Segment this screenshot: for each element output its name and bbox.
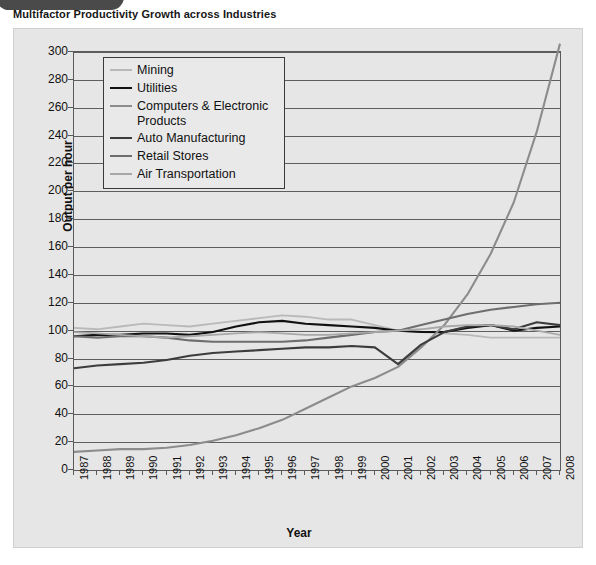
x-tick-label: 2001 xyxy=(402,456,414,480)
x-tick-mark xyxy=(397,470,398,475)
x-tick-mark xyxy=(443,470,444,475)
x-tick-mark xyxy=(212,470,213,475)
legend-swatch-icon xyxy=(110,87,132,89)
x-tick-label: 1987 xyxy=(78,456,90,480)
x-tick-mark xyxy=(374,470,375,475)
x-tick-label: 1990 xyxy=(147,456,159,480)
x-tick-mark xyxy=(189,470,190,475)
y-tick-label: 40 xyxy=(55,406,68,420)
legend-swatch-icon xyxy=(110,105,132,107)
x-tick-label: 1989 xyxy=(124,456,136,480)
x-tick-label: 1998 xyxy=(333,456,345,480)
y-tick-label: 60 xyxy=(55,378,68,392)
x-tick-mark xyxy=(466,470,467,475)
x-tick-label: 1997 xyxy=(309,456,321,480)
legend-item-label: Air Transportation xyxy=(137,166,236,182)
legend-swatch-icon xyxy=(110,173,132,175)
x-tick-mark xyxy=(258,470,259,475)
x-tick-label: 1994 xyxy=(240,456,252,480)
x-axis-ticks: 1987198819891990199119921993199419951996… xyxy=(73,470,560,530)
y-tick-label: 20 xyxy=(55,434,68,448)
x-tick-label: 2007 xyxy=(541,456,553,480)
x-tick-mark xyxy=(235,470,236,475)
x-tick-mark xyxy=(166,470,167,475)
legend-item[interactable]: Utilities xyxy=(104,80,280,97)
x-tick-label: 2000 xyxy=(379,456,391,480)
x-tick-label: 1993 xyxy=(217,456,229,480)
x-axis-label: Year xyxy=(14,526,584,540)
y-tick-label: 280 xyxy=(48,72,68,86)
legend-item[interactable]: Retail Stores xyxy=(104,148,280,165)
page-title: Multifactor Productivity Growth across I… xyxy=(13,8,276,20)
legend-item-label: Utilities xyxy=(137,80,177,96)
x-tick-label: 1995 xyxy=(263,456,275,480)
legend-item[interactable]: Mining xyxy=(104,62,280,79)
legend-swatch-icon xyxy=(110,137,132,139)
x-tick-mark xyxy=(142,470,143,475)
legend-swatch-icon xyxy=(110,69,132,71)
x-tick-mark xyxy=(536,470,537,475)
x-tick-mark xyxy=(119,470,120,475)
x-tick-mark xyxy=(513,470,514,475)
x-tick-mark xyxy=(490,470,491,475)
legend-item[interactable]: Air Transportation xyxy=(104,166,280,183)
series-line xyxy=(74,325,560,338)
legend-item-label: Auto Manufacturing xyxy=(137,130,245,146)
x-tick-mark xyxy=(96,470,97,475)
legend-item-label: Retail Stores xyxy=(137,148,209,164)
x-tick-label: 1996 xyxy=(286,456,298,480)
x-tick-mark xyxy=(559,470,560,475)
chart-legend: MiningUtilitiesComputers & Electronic Pr… xyxy=(103,57,285,189)
legend-item-label: Mining xyxy=(137,62,174,78)
x-tick-mark xyxy=(420,470,421,475)
y-tick-label: 80 xyxy=(55,351,68,365)
x-tick-mark xyxy=(351,470,352,475)
x-tick-label: 1999 xyxy=(356,456,368,480)
chart-container: 0204060801001201401601802002202402602803… xyxy=(13,28,583,548)
legend-swatch-icon xyxy=(110,155,132,157)
x-tick-label: 2003 xyxy=(448,456,460,480)
x-tick-mark xyxy=(73,470,74,475)
y-tick-label: 100 xyxy=(48,323,68,337)
legend-item-label: Computers & Electronic Products xyxy=(137,98,280,129)
x-tick-label: 2006 xyxy=(518,456,530,480)
x-tick-label: 1991 xyxy=(171,456,183,480)
x-tick-label: 2002 xyxy=(425,456,437,480)
x-tick-label: 1992 xyxy=(194,456,206,480)
x-tick-mark xyxy=(281,470,282,475)
x-tick-label: 2004 xyxy=(471,456,483,480)
y-axis-ticks: 0204060801001201401601802002202402602803… xyxy=(14,51,68,469)
x-tick-mark xyxy=(304,470,305,475)
series-line xyxy=(74,322,560,368)
y-tick-label: 140 xyxy=(48,267,68,281)
x-tick-label: 2008 xyxy=(564,456,576,480)
y-tick-label: 300 xyxy=(48,44,68,58)
y-tick-label: 0 xyxy=(61,462,68,476)
x-tick-label: 1988 xyxy=(101,456,113,480)
x-tick-label: 2005 xyxy=(495,456,507,480)
chart-page: EXHIBIT 14.1 Multifactor Productivity Gr… xyxy=(0,0,596,565)
legend-item[interactable]: Computers & Electronic Products xyxy=(104,98,280,129)
x-tick-mark xyxy=(328,470,329,475)
legend-item[interactable]: Auto Manufacturing xyxy=(104,130,280,147)
y-tick-label: 120 xyxy=(48,295,68,309)
